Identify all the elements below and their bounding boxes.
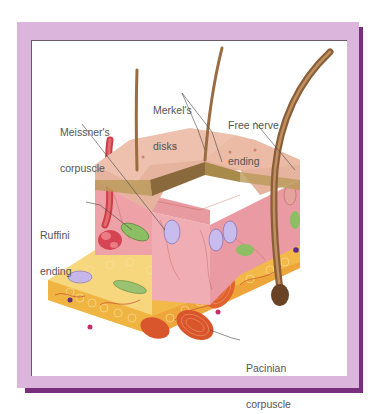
- label-ruffini-line2: ending: [40, 265, 72, 277]
- label-free-nerve-line2: ending: [228, 155, 279, 167]
- label-merkels-disks: Merkel's disks: [153, 80, 192, 164]
- label-pacinian-corpuscle: Pacinian corpuscle: [246, 338, 291, 414]
- label-free-nerve-line1: Free nerve: [228, 119, 279, 131]
- label-ruffini-line1: Ruffini: [40, 229, 72, 241]
- label-free-nerve-ending: Free nerve ending: [228, 95, 279, 179]
- label-ruffini-ending: Ruffini ending: [40, 205, 72, 289]
- label-pacinian-line2: corpuscle: [246, 398, 291, 410]
- label-meissners-line2: corpuscle: [60, 162, 110, 174]
- label-merkels-line1: Merkel's: [153, 104, 192, 116]
- label-merkels-line2: disks: [153, 140, 192, 152]
- label-meissners-corpuscle: Meissner's corpuscle: [60, 102, 110, 186]
- label-pacinian-line1: Pacinian: [246, 362, 291, 374]
- label-meissners-line1: Meissner's: [60, 126, 110, 138]
